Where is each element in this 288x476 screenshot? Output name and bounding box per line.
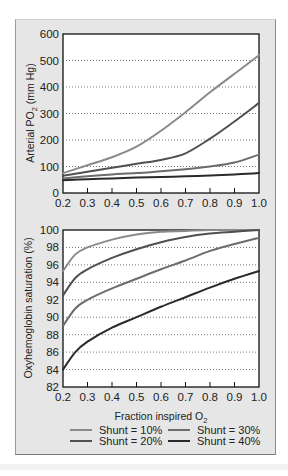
top-y-tick-labels: 0100200300400500600 (40, 28, 59, 199)
arterial-po2-chart: 0100200300400500600 0.20.30.40.50.60.70.… (24, 28, 267, 209)
y-tick-label: 200 (40, 134, 59, 146)
bottom-y-tick-labels: 828486889092949698100 (40, 224, 60, 393)
x-tick-label: 0.7 (178, 391, 194, 403)
y-tick-label: 90 (46, 311, 59, 323)
chart-canvas: 0100200300400500600 0.20.30.40.50.60.70.… (0, 0, 288, 476)
y-tick-label: 96 (46, 259, 59, 271)
y-tick-label: 86 (46, 346, 59, 358)
x-tick-label: 0.5 (129, 391, 145, 403)
y-tick-label: 600 (40, 28, 59, 40)
x-tick-label: 0.4 (104, 197, 121, 209)
x-tick-label: 0.3 (80, 391, 96, 403)
x-tick-label: 0.3 (80, 197, 96, 209)
y-tick-label: 300 (40, 108, 59, 120)
legend-label: Shunt = 20% (99, 435, 163, 447)
y-tick-label: 84 (46, 364, 59, 376)
x-tick-label: 0.2 (55, 391, 71, 403)
x-tick-label: 0.9 (227, 197, 243, 209)
x-tick-label: 0.9 (227, 391, 243, 403)
y-tick-label: 500 (40, 55, 59, 67)
y-tick-label: 98 (46, 241, 59, 253)
y-tick-label: 400 (40, 81, 59, 93)
y-tick-label: 92 (46, 294, 59, 306)
y-tick-label: 88 (46, 329, 59, 341)
x-tick-label: 0.5 (129, 197, 145, 209)
x-tick-label: 0.4 (104, 391, 121, 403)
legend: Shunt = 10%Shunt = 20%Shunt = 30%Shunt =… (70, 424, 261, 447)
legend-label: Shunt = 40% (197, 435, 261, 447)
bottom-x-tick-labels: 0.20.30.40.50.60.70.80.91.0 (55, 391, 267, 403)
y-tick-label: 100 (40, 224, 59, 236)
x-tick-label: 1.0 (251, 197, 267, 209)
oxyhemoglobin-saturation-chart: 828486889092949698100 0.20.30.40.50.60.7… (22, 224, 267, 425)
y-tick-label: 100 (40, 161, 59, 173)
x-tick-label: 0.8 (202, 197, 218, 209)
y-tick-label: 94 (46, 276, 59, 288)
x-tick-label: 0.6 (153, 391, 169, 403)
bottom-y-axis-title: Oxyhemoglobin saturation (%) (22, 237, 34, 378)
top-y-axis-title: Arterial PO2 (mm Hg) (24, 63, 39, 162)
top-plot-area (63, 34, 259, 193)
x-tick-label: 0.6 (153, 197, 169, 209)
bottom-plot-area (63, 230, 259, 387)
x-tick-label: 0.2 (55, 197, 71, 209)
top-x-tick-labels: 0.20.30.40.50.60.70.80.91.0 (55, 197, 267, 209)
x-tick-label: 0.7 (178, 197, 194, 209)
x-axis-title: Fraction inspired O2 (115, 410, 208, 425)
x-tick-label: 1.0 (251, 391, 267, 403)
x-tick-label: 0.8 (202, 391, 218, 403)
